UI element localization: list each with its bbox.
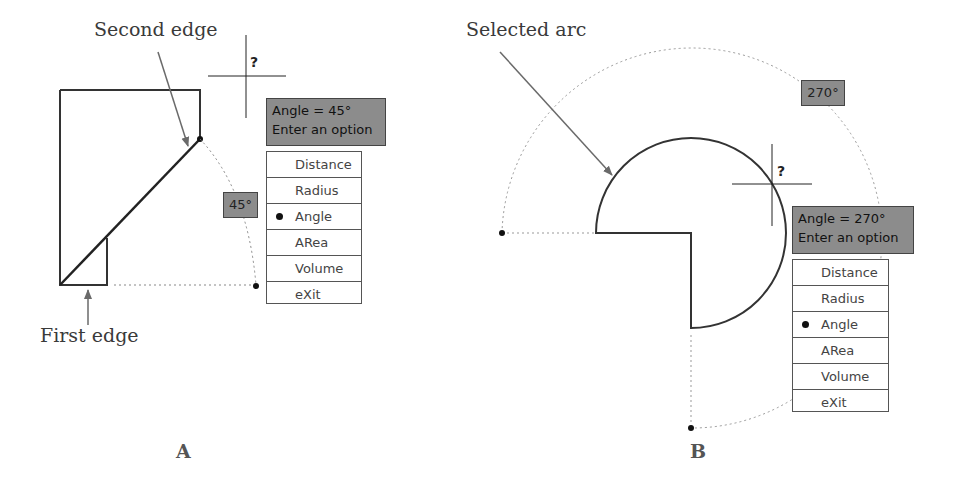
- menu-item-distance[interactable]: Distance: [267, 152, 361, 178]
- panel-label-b: B: [690, 440, 706, 462]
- option-menu: Distance Radius Angle ARea Volume eXit: [266, 151, 362, 304]
- menu-item-label: Distance: [821, 260, 878, 285]
- angle-value-badge: 270°: [801, 80, 845, 106]
- menu-item-radius[interactable]: Radius: [793, 286, 888, 312]
- dynamic-input-tooltip: Angle = 270° Enter an option: [792, 206, 914, 254]
- arc-start-point: [499, 230, 505, 236]
- menu-item-exit[interactable]: eXit: [267, 282, 361, 308]
- menu-item-label: eXit: [821, 390, 847, 415]
- callout-second-edge: Second edge: [94, 18, 218, 40]
- menu-item-label: ARea: [821, 338, 854, 363]
- selected-bullet-icon: [802, 321, 809, 328]
- tooltip-line-1: Angle = 45°: [272, 101, 380, 120]
- menu-item-area[interactable]: ARea: [793, 338, 888, 364]
- callout-first-edge: First edge: [40, 324, 139, 346]
- menu-item-radius[interactable]: Radius: [267, 178, 361, 204]
- menu-item-angle[interactable]: Angle: [267, 204, 361, 230]
- menu-item-label: Radius: [821, 286, 865, 311]
- menu-item-label: Angle: [821, 312, 858, 337]
- menu-item-angle[interactable]: Angle: [793, 312, 888, 338]
- menu-item-distance[interactable]: Distance: [793, 260, 888, 286]
- second-edge-line: [60, 139, 200, 285]
- menu-item-volume[interactable]: Volume: [793, 364, 888, 390]
- arc-end-point: [688, 425, 694, 431]
- option-menu: Distance Radius Angle ARea Volume eXit: [792, 259, 889, 412]
- dynamic-input-tooltip: Angle = 45° Enter an option: [266, 98, 386, 146]
- selected-arc-arrow: [500, 52, 612, 175]
- menu-item-label: Distance: [295, 152, 352, 177]
- tooltip-line-2: Enter an option: [272, 120, 380, 139]
- shape-outline: [60, 90, 200, 139]
- menu-item-label: eXit: [295, 282, 321, 307]
- question-cursor-icon: ?: [777, 163, 785, 179]
- arc-endpoint-a: [253, 283, 259, 289]
- menu-item-label: Volume: [821, 364, 869, 389]
- menu-item-label: Radius: [295, 178, 339, 203]
- menu-item-area[interactable]: ARea: [267, 230, 361, 256]
- menu-item-label: ARea: [295, 230, 328, 255]
- panel-a-geometry: [60, 35, 286, 325]
- second-edge-arrow: [158, 52, 188, 146]
- menu-item-label: Volume: [295, 256, 343, 281]
- callout-selected-arc: Selected arc: [466, 18, 586, 40]
- menu-item-volume[interactable]: Volume: [267, 256, 361, 282]
- tooltip-line-2: Enter an option: [798, 228, 908, 247]
- angle-value-badge: 45°: [223, 192, 258, 218]
- selected-arc: [596, 138, 786, 328]
- menu-item-exit[interactable]: eXit: [793, 390, 888, 416]
- menu-item-label: Angle: [295, 204, 332, 229]
- panel-label-a: A: [176, 440, 191, 462]
- tooltip-line-1: Angle = 270°: [798, 209, 908, 228]
- question-cursor-icon: ?: [250, 54, 258, 70]
- selected-bullet-icon: [276, 213, 283, 220]
